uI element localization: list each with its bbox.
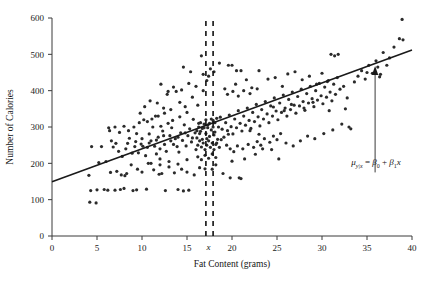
data-point [221, 128, 224, 131]
data-point [325, 96, 328, 99]
data-point [159, 83, 162, 86]
data-point [242, 115, 245, 118]
data-point [113, 125, 116, 128]
data-point [88, 201, 91, 204]
data-point [289, 108, 292, 111]
data-point [257, 69, 260, 72]
data-point [145, 188, 148, 191]
data-point [172, 85, 175, 88]
data-point [130, 163, 133, 166]
data-point [287, 98, 290, 101]
data-point [258, 124, 261, 127]
y-tick-label: 200 [31, 159, 45, 169]
data-point [272, 134, 275, 137]
data-point [125, 172, 128, 175]
data-point [140, 170, 143, 173]
data-point [302, 107, 305, 110]
data-point [263, 137, 266, 140]
data-point [316, 99, 319, 102]
data-point [284, 141, 287, 144]
data-point [191, 136, 194, 139]
data-point [293, 70, 296, 73]
data-point [283, 109, 286, 112]
data-point [185, 111, 188, 114]
data-point [230, 64, 233, 67]
data-point [221, 172, 224, 175]
data-point [248, 92, 251, 95]
data-point [214, 163, 217, 166]
data-point [89, 189, 92, 192]
data-point [109, 171, 112, 174]
data-point [320, 94, 323, 97]
data-point [253, 120, 256, 123]
data-point [338, 88, 341, 91]
data-point [135, 132, 138, 135]
data-point [159, 125, 162, 128]
data-point [107, 126, 110, 129]
data-point [203, 148, 206, 151]
data-point [206, 126, 209, 129]
data-point [196, 104, 199, 107]
data-point [95, 201, 98, 204]
data-point [271, 115, 274, 118]
data-point [226, 93, 229, 96]
data-point [230, 125, 233, 128]
data-point [259, 144, 262, 147]
data-point [196, 155, 199, 158]
data-point [234, 83, 237, 86]
data-point [195, 136, 198, 139]
y-tick-label: 500 [31, 50, 45, 60]
x-value-label: x [206, 242, 211, 252]
data-point [126, 142, 129, 145]
data-point [239, 69, 242, 72]
data-point [298, 104, 301, 107]
data-point [139, 112, 142, 115]
data-point [182, 189, 185, 192]
data-point [329, 91, 332, 94]
data-point [401, 18, 404, 21]
data-point [214, 143, 217, 146]
data-point [274, 76, 277, 79]
data-point [149, 162, 152, 165]
data-point [227, 133, 230, 136]
data-point [231, 132, 234, 135]
y-tick-label: 100 [31, 195, 45, 205]
data-point [286, 72, 289, 75]
data-point [379, 73, 382, 76]
data-point [169, 139, 172, 142]
data-point [122, 187, 125, 190]
data-point [272, 105, 275, 108]
plot-content: 05101520253035400100200300400500600μy|x … [5, 13, 417, 270]
data-point [311, 101, 314, 104]
data-point [254, 153, 257, 156]
data-point [203, 167, 206, 170]
data-point [280, 111, 283, 114]
data-point [180, 168, 183, 171]
data-point [208, 135, 211, 138]
data-point [119, 188, 122, 191]
x-tick-label: 15 [183, 243, 193, 253]
data-point [148, 132, 151, 135]
data-point [189, 70, 192, 73]
data-point [290, 103, 293, 106]
data-point [328, 109, 331, 112]
data-point [176, 188, 179, 191]
mean-response-equation: μy|x = β0 + β1x [350, 157, 401, 169]
data-point [382, 51, 385, 54]
data-point [222, 136, 225, 139]
data-point [182, 65, 185, 68]
scatter-plot-figure: 05101520253035400100200300400500600μy|x … [0, 0, 432, 281]
data-point [160, 172, 163, 175]
data-point [278, 101, 281, 104]
x-tick-label: 35 [363, 243, 373, 253]
data-point [188, 127, 191, 130]
data-point [337, 53, 340, 56]
data-point [185, 158, 188, 161]
data-point [152, 168, 155, 171]
data-point [261, 147, 264, 150]
data-point [256, 87, 259, 90]
data-point [227, 64, 230, 67]
data-point [115, 170, 118, 173]
y-axis-title: Number of Calories [5, 89, 15, 165]
data-point [113, 189, 116, 192]
